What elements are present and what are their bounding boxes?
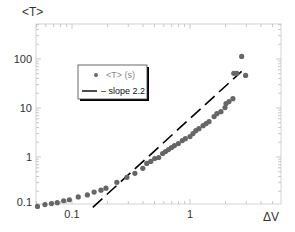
data-point	[218, 109, 223, 114]
y-axis-title: <T>	[22, 5, 43, 19]
data-point	[85, 192, 90, 197]
data-point	[239, 54, 244, 59]
data-point	[61, 198, 66, 203]
data-point	[76, 194, 81, 199]
data-point	[92, 190, 97, 195]
x-tick-label: 0.1	[64, 208, 79, 220]
legend-dot-icon	[94, 73, 98, 77]
data-point	[132, 171, 137, 176]
data-point	[35, 204, 40, 209]
x-axis-title: ΔV	[263, 210, 279, 224]
data-point	[114, 180, 119, 185]
chart: 0.110.1110100 <T> ΔV <T> (s) – slope 2.2	[0, 0, 295, 232]
legend: <T> (s) – slope 2.2	[78, 65, 149, 101]
data-point	[49, 201, 54, 206]
data-point	[42, 202, 47, 207]
legend-label-fit: – slope 2.2	[101, 86, 145, 96]
data-point	[206, 119, 211, 124]
y-tick-label: 10	[20, 102, 32, 114]
data-point	[98, 188, 103, 193]
y-tick-label: 100	[14, 53, 32, 65]
y-tick-label: 1	[26, 151, 32, 163]
data-point	[55, 200, 60, 205]
data-point	[243, 73, 248, 78]
data-point	[234, 71, 239, 76]
data-point	[140, 166, 145, 171]
plot-frame	[36, 24, 281, 204]
data-point	[67, 197, 72, 202]
data-point	[103, 186, 108, 191]
data-point	[230, 96, 235, 101]
x-tick-label: 1	[187, 208, 193, 220]
data-point	[156, 155, 161, 160]
legend-label-series: <T> (s)	[106, 70, 135, 80]
y-tick-label: 0.1	[17, 196, 32, 208]
data-point	[183, 136, 188, 141]
data-point	[124, 175, 129, 180]
